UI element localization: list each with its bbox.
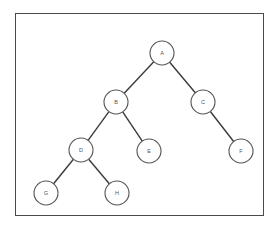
tree-node-b: B [104, 90, 128, 114]
edge-d-g [54, 159, 74, 183]
node-label: C [201, 99, 205, 105]
tree-node-g: G [34, 181, 58, 205]
node-label: D [79, 147, 83, 153]
edge-a-c [170, 62, 196, 93]
edges-group [54, 62, 234, 184]
node-label: E [147, 148, 151, 154]
edge-c-f [210, 111, 233, 141]
node-label: G [44, 190, 48, 196]
tree-node-f: F [229, 139, 253, 163]
edge-b-e [123, 112, 143, 141]
tree-node-d: D [69, 138, 93, 162]
node-label: H [115, 190, 119, 196]
tree-diagram: ABCDEFGH [0, 0, 279, 227]
tree-node-e: E [137, 139, 161, 163]
edge-d-h [89, 159, 110, 184]
tree-node-h: H [105, 181, 129, 205]
edge-a-b [124, 62, 154, 94]
node-label: A [160, 50, 164, 56]
tree-node-c: C [191, 90, 215, 114]
node-label: B [114, 99, 118, 105]
tree-node-a: A [150, 41, 174, 65]
edge-b-d [88, 112, 109, 141]
